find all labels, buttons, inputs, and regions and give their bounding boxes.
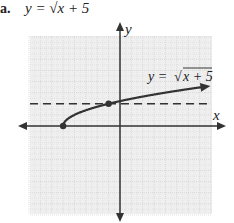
y-axis-label: y	[123, 21, 132, 37]
svg-text:√: √	[174, 69, 182, 84]
x-axis-label: x	[212, 107, 220, 123]
data-point	[105, 101, 111, 107]
y-axis-down-arrow-icon	[116, 213, 124, 222]
svg-text:x + 5: x + 5	[182, 69, 213, 84]
svg-text:y =: y =	[146, 69, 167, 84]
curve-label: y = √ x + 5	[146, 68, 213, 84]
x-axis-right-arrow-icon	[217, 122, 226, 130]
graph: x y y = √ x + 5	[0, 0, 234, 223]
y-axis-up-arrow-icon	[116, 22, 124, 31]
x-axis-left-arrow-icon	[18, 122, 27, 130]
data-point	[60, 123, 66, 129]
